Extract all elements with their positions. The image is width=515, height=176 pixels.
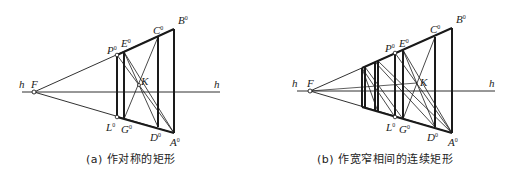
label-h-left-b: h bbox=[292, 77, 298, 89]
labels-a: h F h K P0 E0 C0 B0 L0 G0 D0 A0 bbox=[19, 14, 220, 148]
diagonal-ED-a bbox=[124, 52, 158, 127]
label-B-a: B0 bbox=[178, 14, 188, 26]
diagonal-2-b bbox=[375, 62, 435, 127]
label-G-a: G0 bbox=[121, 123, 132, 135]
diagonal-CG-b bbox=[403, 37, 435, 119]
label-L-b: L0 bbox=[385, 121, 395, 133]
figure-b bbox=[297, 28, 495, 133]
label-h-left-a: h bbox=[19, 78, 25, 90]
label-K-b: K bbox=[419, 76, 428, 88]
labels-b: h F h K P0 E0 C0 B0 L0 G0 D0 A0 bbox=[292, 13, 495, 148]
diagonal-ED-b bbox=[403, 50, 435, 127]
caption-a: (a) 作对称的矩形 bbox=[86, 150, 176, 166]
point-F-b bbox=[308, 89, 312, 93]
label-G-b: G0 bbox=[399, 123, 410, 135]
label-h-right-a: h bbox=[214, 78, 220, 90]
label-E-a: E0 bbox=[120, 37, 131, 49]
label-K-a: K bbox=[140, 75, 149, 87]
point-L-a bbox=[115, 115, 119, 119]
caption-b: (b) 作宽窄相间的连续矩形 bbox=[317, 150, 453, 166]
point-P-b bbox=[393, 51, 397, 55]
label-F-b: F bbox=[306, 77, 314, 89]
label-F-a: F bbox=[30, 78, 38, 90]
label-A-b: A0 bbox=[447, 136, 458, 148]
label-A-a: A0 bbox=[169, 136, 180, 148]
label-L-a: L0 bbox=[105, 121, 115, 133]
point-F-a bbox=[32, 90, 36, 94]
point-P-a bbox=[115, 53, 119, 57]
label-h-right-b: h bbox=[489, 77, 495, 89]
point-L-b bbox=[393, 115, 397, 119]
label-D-b: D0 bbox=[426, 131, 438, 143]
label-D-a: D0 bbox=[149, 131, 161, 143]
label-B-b: B0 bbox=[456, 13, 466, 25]
